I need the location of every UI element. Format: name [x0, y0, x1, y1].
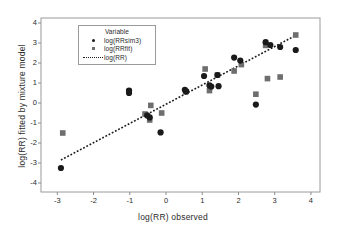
y-tick-label: 0 [19, 98, 37, 107]
y-tick-label: 1 [19, 78, 37, 87]
x-tick-label: -3 [47, 196, 67, 205]
y-tick-label: -3 [19, 158, 37, 167]
x-tick-label: -2 [84, 196, 104, 205]
x-tick-label: 2 [228, 196, 248, 205]
y-tick-label: -4 [19, 178, 37, 187]
y-tick-label: -1 [19, 118, 37, 127]
legend-label: log(RR) [104, 54, 127, 61]
x-axis-label: log(RR) observed [0, 212, 346, 222]
x-tick-label: 1 [192, 196, 212, 205]
legend-title: Variable [82, 28, 152, 35]
scatter-plot-figure: log(RR) observed log(RR) fitted by mixtu… [0, 0, 346, 233]
dashed-line-icon [82, 57, 104, 58]
x-tick-label: -1 [120, 196, 140, 205]
x-tick-label: 4 [301, 196, 321, 205]
legend-item-log-rr: log(RR) [82, 53, 152, 61]
chart-legend: Variable log(RRsim3) log(RRfit) log(RR) [78, 25, 156, 65]
square-marker-icon [82, 47, 104, 50]
legend-item-log-rrfit: log(RRfit) [82, 45, 152, 53]
y-tick-label: -2 [19, 138, 37, 147]
y-tick-label: 2 [19, 58, 37, 67]
dot-marker-icon [82, 39, 104, 42]
legend-item-log-rrsim3: log(RRsim3) [82, 36, 152, 44]
x-tick-label: 0 [156, 196, 176, 205]
legend-label: log(RRfit) [104, 45, 132, 52]
x-tick-label: 3 [265, 196, 285, 205]
legend-label: log(RRsim3) [104, 37, 141, 44]
y-tick-label: 3 [19, 38, 37, 47]
y-tick-label: 4 [19, 18, 37, 27]
